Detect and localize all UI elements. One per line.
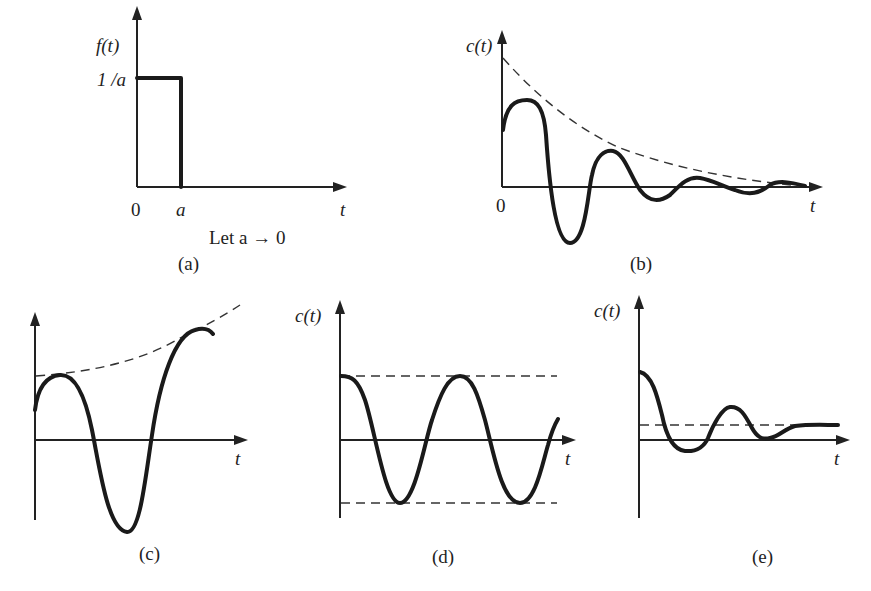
x-tick-origin: 0	[496, 195, 506, 216]
y-axis-arrow-icon	[30, 312, 40, 326]
y-label: c(t)	[466, 35, 492, 57]
x-tick-origin: 0	[131, 199, 141, 220]
x-label: t	[834, 448, 840, 469]
y-label: f(t)	[96, 35, 119, 57]
figure-canvas: f(t) 1 /a 0 a t Let a → 0 (a) c(t) 0 t (…	[0, 0, 871, 591]
panel-c: t (c)	[30, 305, 248, 565]
caption-c: (c)	[139, 543, 160, 565]
y-axis-arrow-icon	[634, 295, 644, 309]
y-tick-label: 1 /a	[97, 69, 126, 90]
x-label: t	[565, 448, 571, 469]
pulse-curve	[137, 78, 181, 187]
x-axis-arrow-icon	[809, 182, 823, 192]
caption-b: (b)	[630, 253, 652, 275]
x-tick-a: a	[176, 199, 186, 220]
x-label: t	[235, 448, 241, 469]
x-label: t	[810, 195, 816, 216]
y-axis-arrow-icon	[497, 30, 507, 44]
panel-b: c(t) 0 t (b)	[466, 30, 823, 275]
x-label: t	[340, 199, 346, 220]
panel-a: f(t) 1 /a 0 a t Let a → 0 (a)	[96, 6, 347, 275]
x-axis-arrow-icon	[234, 435, 248, 445]
x-axis-arrow-icon	[836, 435, 850, 445]
y-axis-arrow-icon	[132, 6, 142, 20]
growth-envelope	[36, 305, 240, 376]
x-axis-arrow-icon	[333, 182, 347, 192]
x-axis-arrow-icon	[562, 435, 576, 445]
caption-e: (e)	[752, 546, 773, 568]
caption-d: (d)	[432, 546, 454, 568]
damped-response-curve	[503, 100, 805, 243]
y-axis-arrow-icon	[335, 300, 345, 314]
y-label: c(t)	[295, 305, 321, 327]
panel-e: c(t) t (e)	[594, 295, 850, 568]
panel-d: c(t) t (d)	[295, 300, 576, 568]
y-label: c(t)	[594, 300, 620, 322]
limit-note: Let a → 0	[209, 227, 286, 248]
growing-response-curve	[35, 329, 213, 532]
caption-a: (a)	[178, 253, 199, 275]
